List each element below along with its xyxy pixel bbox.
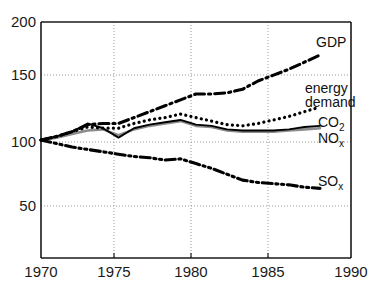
x-tick-label-1975: 1975: [97, 263, 130, 280]
x-tick-label-1980: 1980: [174, 263, 207, 280]
x-tick-label-1985: 1985: [251, 263, 284, 280]
y-tick-label-100: 100: [11, 133, 36, 150]
series-label-sox-subscript: x: [338, 181, 343, 192]
y-axis-labels: 200 150 100 50: [11, 13, 36, 214]
series-label-nox-subscript: x: [339, 138, 344, 149]
series-label-energy-demand-line2: demand: [305, 94, 356, 110]
x-tick-label-1990: 1990: [334, 263, 367, 280]
y-tick-label-200: 200: [11, 13, 36, 30]
line-chart-svg: 200 150 100 50 1970 1975 1980 1985 1990 …: [0, 0, 374, 289]
series-label-nox-main: NO: [318, 130, 339, 146]
series-label-co2-main: CO: [318, 114, 339, 130]
series-label-sox-main: SO: [318, 173, 338, 189]
y-tick-label-150: 150: [11, 66, 36, 83]
x-axis-labels: 1970 1975 1980 1985 1990: [24, 263, 367, 280]
x-tick-label-1970: 1970: [24, 263, 57, 280]
series-label-co2-subscript: 2: [339, 122, 345, 133]
chart-container: 200 150 100 50 1970 1975 1980 1985 1990 …: [0, 0, 374, 289]
y-tick-label-50: 50: [19, 197, 36, 214]
series-label-gdp: GDP: [316, 34, 346, 50]
plot-area-background: [41, 22, 351, 258]
